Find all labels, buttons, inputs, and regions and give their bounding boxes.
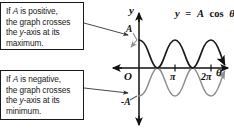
figure-cosine-amplitude: y θ O π 2π A -A y = A cos θ If A is posi…	[0, 0, 234, 130]
note-line: If A is positive,	[6, 6, 79, 17]
equation-lhs: y	[173, 8, 180, 19]
amplitude-negative-label: -A	[121, 97, 131, 107]
equation-function: cos	[210, 8, 224, 19]
equation-variable: θ	[229, 8, 234, 19]
note-line: If A is negative,	[6, 74, 79, 85]
x-axis-label: θ	[216, 66, 222, 78]
positive-amplitude-note: If A is positive, the graph crosses the …	[0, 2, 84, 50]
negative-amplitude-note: If A is negative, the graph crosses the …	[0, 70, 84, 120]
equation-equals: =	[185, 8, 191, 19]
note-line: the y-axis at its	[6, 27, 79, 38]
note-text: If	[6, 74, 13, 84]
note-line: the y-axis at its	[6, 95, 79, 106]
note-text: the	[6, 27, 19, 37]
amplitude-positive-label: A	[125, 24, 132, 34]
note-line: maximum.	[6, 38, 79, 49]
note-text: -axis at its	[24, 95, 60, 105]
x-tick-label-2pi: 2π	[200, 71, 212, 82]
equation-amplitude: A	[196, 8, 204, 19]
note-text: -axis at its	[24, 27, 60, 37]
curve-positive-amplitude	[139, 40, 225, 68]
origin-label: O	[124, 70, 132, 82]
x-tick-label-pi: π	[170, 71, 176, 82]
note-text: If	[6, 6, 13, 16]
curve-negative-amplitude	[139, 68, 225, 96]
note-text: the	[6, 95, 19, 105]
note-line: minimum.	[6, 106, 79, 117]
svg-text:y = A: y = A cos θ	[173, 8, 234, 19]
note-line: the graph crosses	[6, 85, 79, 96]
equation-label: y = A cos θ	[173, 8, 234, 19]
note-text: is positive,	[18, 6, 58, 16]
note-text: is negative,	[18, 74, 61, 84]
note-line: the graph crosses	[6, 17, 79, 28]
y-axis-label: y	[127, 4, 134, 16]
